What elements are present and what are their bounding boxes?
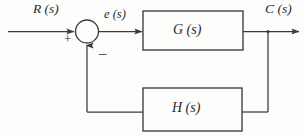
error-signal-label: e (s)	[104, 8, 126, 21]
output-signal-label: C (s)	[265, 2, 292, 16]
summing-junction	[76, 20, 99, 43]
summing-plus-sign: +	[64, 31, 71, 47]
forward-block-label: G (s)	[173, 23, 201, 37]
feedback-block-label: H (s)	[172, 101, 200, 115]
diagram-graphics	[0, 0, 305, 136]
summing-minus-sign: –	[99, 45, 107, 62]
block-diagram-canvas: R (s) e (s) C (s) G (s) H (s) + –	[0, 0, 305, 136]
input-signal-label: R (s)	[33, 2, 59, 16]
